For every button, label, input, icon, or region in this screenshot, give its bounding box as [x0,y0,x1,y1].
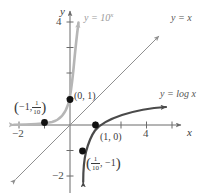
one-tenth-fraction-lower: 110 [91,155,100,172]
paren-close-left: ) [41,99,46,115]
point-1-0 [92,122,99,129]
paren-close-lower: ) [116,155,121,171]
identity-line-label: y = x [171,13,192,23]
point-label-0-1: (0, 1) [74,91,96,101]
point-0-1 [67,96,74,103]
log-exponential-graph-figure: y x −2 4 4 −2 y = 10x y = x y = log x (0… [0,0,203,195]
x-tick-label-neg2: −2 [12,128,24,139]
fraction-denominator-lower: 10 [91,164,100,172]
y-tick-label-4: 4 [56,16,62,27]
point-label-tenth-neg1: (110, −1) [86,155,121,172]
neg-one-component-lower: , −1 [100,157,116,168]
point-label-neg1-tenth: (−1,110) [14,99,46,116]
x-tick-label-4: 4 [143,128,149,139]
neg-one-component: −1, [19,101,32,112]
paren-open-left: ( [14,99,19,115]
y-tick-label-neg2: −2 [52,170,64,181]
fraction-numerator-lower: 1 [91,155,100,164]
point-neg1-tenth [41,119,48,126]
point-tenth-neg1 [79,148,86,155]
exponential-curve-label: y = 10x [84,12,113,23]
exponential-curve-label-text: y = 10 [84,12,110,23]
exponential-curve-label-exponent: x [110,11,113,19]
fraction-numerator: 1 [32,99,41,108]
one-tenth-fraction: 110 [32,99,41,116]
x-axis-label: x [187,127,192,138]
fraction-denominator: 10 [32,108,41,116]
logarithm-curve-label: y = log x [160,89,196,99]
point-label-1-0: (1, 0) [100,132,122,142]
